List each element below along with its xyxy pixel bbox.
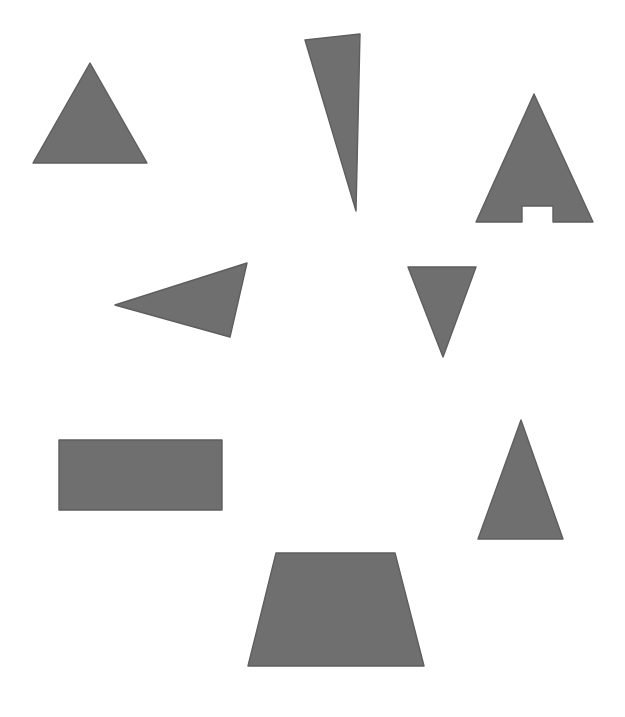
narrow-sliver-triangle <box>305 34 360 211</box>
isosceles-triangle <box>478 420 563 539</box>
left-pointing-triangle <box>115 263 247 337</box>
trapezoid <box>248 553 424 666</box>
rectangle <box>59 440 222 510</box>
inverted-triangle <box>408 267 476 357</box>
notched-triangle <box>476 94 593 222</box>
shapes-canvas <box>0 0 625 717</box>
equilateral-triangle <box>33 63 147 163</box>
